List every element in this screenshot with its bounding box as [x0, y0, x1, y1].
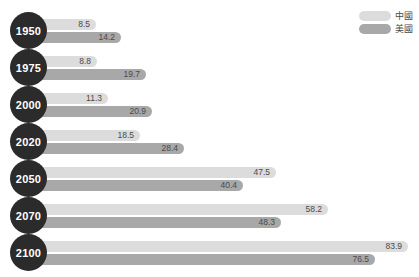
bar-value-china: 47.5 — [253, 167, 270, 178]
year-bubble: 1975 — [10, 49, 47, 86]
bar-group: 8.5 14.2 — [36, 19, 121, 43]
chart-legend: 中國 美國 — [359, 11, 413, 34]
legend-label-china: 中國 — [395, 11, 413, 21]
bar-value-china: 18.5 — [117, 130, 134, 141]
bar-group: 47.5 40.4 — [36, 167, 276, 191]
bar-value-china: 83.9 — [385, 241, 402, 252]
year-label: 2020 — [16, 136, 41, 148]
chart-container: 中國 美國 1950 8.5 14.2 1975 8.8 — [0, 0, 419, 277]
bar-value-usa: 28.4 — [161, 143, 178, 154]
bar-group: 18.5 28.4 — [36, 130, 184, 154]
bar-usa: 20.9 — [36, 106, 152, 117]
bar-group: 83.9 76.5 — [36, 241, 408, 265]
year-bubble: 2020 — [10, 123, 47, 160]
bar-value-china: 8.5 — [78, 19, 90, 30]
bar-usa: 48.3 — [36, 217, 281, 228]
bar-usa: 14.2 — [36, 32, 121, 43]
bar-value-usa: 40.4 — [220, 180, 237, 191]
bar-value-usa: 14.2 — [98, 32, 115, 43]
bar-value-usa: 48.3 — [258, 217, 275, 228]
bar-usa: 19.7 — [36, 69, 146, 80]
legend-item-china: 中國 — [359, 11, 413, 21]
bar-group: 11.3 20.9 — [36, 93, 152, 117]
year-label: 2050 — [16, 173, 41, 185]
year-label: 2100 — [16, 247, 41, 259]
bar-value-china: 11.3 — [86, 93, 102, 104]
bar-usa: 76.5 — [36, 254, 375, 265]
bar-value-usa: 20.9 — [129, 106, 146, 117]
bar-china: 83.9 — [36, 241, 408, 252]
bar-value-china: 8.8 — [79, 56, 91, 67]
bar-china: 58.2 — [36, 204, 328, 215]
bar-china: 47.5 — [36, 167, 276, 178]
year-bubble: 2100 — [10, 234, 47, 271]
year-label: 1975 — [16, 62, 41, 74]
year-label: 1950 — [16, 25, 41, 37]
bar-usa: 28.4 — [36, 143, 184, 154]
year-label: 2000 — [16, 99, 41, 111]
bar-group: 58.2 48.3 — [36, 204, 328, 228]
bar-china: 18.5 — [36, 130, 140, 141]
bar-group: 8.8 19.7 — [36, 56, 146, 80]
year-bubble: 2070 — [10, 197, 47, 234]
year-bubble: 2000 — [10, 86, 47, 123]
legend-swatch-china-icon — [359, 11, 391, 21]
legend-swatch-usa-icon — [359, 24, 391, 34]
bar-value-usa: 19.7 — [123, 69, 140, 80]
year-label: 2070 — [16, 210, 41, 222]
legend-item-usa: 美國 — [359, 24, 413, 34]
legend-label-usa: 美國 — [395, 24, 413, 34]
bar-value-china: 58.2 — [305, 204, 322, 215]
year-bubble: 2050 — [10, 160, 47, 197]
year-bubble: 1950 — [10, 12, 47, 49]
bar-value-usa: 76.5 — [352, 254, 369, 265]
bar-usa: 40.4 — [36, 180, 243, 191]
